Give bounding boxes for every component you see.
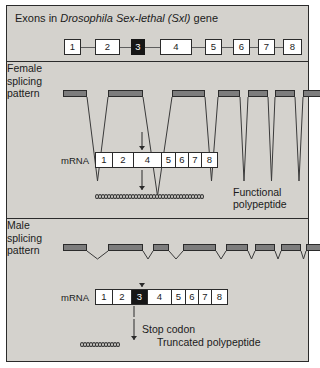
female-mrna-label: mRNA <box>61 155 89 166</box>
female-mrna-exon-5: 5 <box>162 153 176 167</box>
stop-codon-label: Stop codon <box>142 323 195 335</box>
male-splicing-panel: Male splicing pattern mRNA 12345678 Stop… <box>7 219 308 363</box>
female-exon-bar-4 <box>218 90 240 97</box>
functional-polypeptide-label: Functional polypeptide <box>233 186 287 210</box>
female-intron-loop-2 <box>143 97 172 196</box>
title-prefix: Exons in <box>15 12 60 24</box>
female-exon-bar-1 <box>63 90 87 97</box>
gene-exon-box-4: 4 <box>160 39 192 55</box>
gene-intron-connector <box>192 47 205 48</box>
female-mrna-exon-7: 7 <box>189 153 202 167</box>
female-mrna-exon-2: 2 <box>113 153 134 167</box>
gene-intron-connector <box>222 47 233 48</box>
peptide-bead <box>200 194 204 199</box>
functional-label-line-1: Functional <box>233 186 287 198</box>
male-mrna-exon-6: 6 <box>186 290 199 304</box>
gene-exon-box-6: 6 <box>233 39 250 55</box>
female-exon-bar-6 <box>275 90 295 97</box>
female-intron-loop-4 <box>240 97 248 181</box>
figure-panel: Exons in Drosophila Sex-lethal (Sxl) gen… <box>6 5 309 362</box>
peptide-bead <box>116 342 120 347</box>
female-mrna-exon-1: 1 <box>96 153 113 167</box>
male-splicing-arrow-head <box>139 283 145 287</box>
gene-intron-connector <box>250 47 258 48</box>
female-exon-bar-2 <box>108 90 143 97</box>
title-gene: Sex-lethal (Sxl) <box>113 12 191 24</box>
gene-map-panel: Exons in Drosophila Sex-lethal (Sxl) gen… <box>7 6 308 62</box>
female-mrna-exon-8: 8 <box>202 153 217 167</box>
title-species: Drosophila <box>60 12 113 24</box>
male-exon-bar-3 <box>153 244 169 251</box>
male-exon-bar-1 <box>63 244 87 251</box>
functional-label-line-2: polypeptide <box>233 198 287 210</box>
male-label-line-1: Male <box>7 219 308 232</box>
male-mrna-exon-4: 4 <box>148 290 172 304</box>
female-intron-loop-6 <box>295 97 303 181</box>
male-exon-bar-5 <box>226 244 248 251</box>
gene-intron-connector <box>120 47 131 48</box>
male-exon-bar-7 <box>281 244 301 251</box>
male-translation-arrow-head <box>131 336 137 340</box>
male-mrna-label: mRNA <box>61 292 89 303</box>
female-intron-loop-1 <box>87 97 108 181</box>
gene-intron-connector <box>145 47 160 48</box>
gene-intron-connector <box>275 47 283 48</box>
female-translation-arrow-head <box>139 186 145 190</box>
male-mrna-exon-3: 3 <box>132 290 148 304</box>
male-label-line-2: splicing <box>7 232 308 245</box>
female-intron-loop-5 <box>268 97 275 181</box>
female-exon-bar-7 <box>303 90 317 97</box>
gene-exon-box-1: 1 <box>64 39 81 55</box>
female-label-line-2: splicing <box>7 75 308 88</box>
male-mrna-exon-7: 7 <box>199 290 212 304</box>
male-exon-bar-8 <box>306 244 317 251</box>
female-exon-bar-3 <box>172 90 205 97</box>
female-mrna-strip: 1245678 <box>95 152 218 168</box>
female-label-line-1: Female <box>7 62 308 75</box>
gene-exon-box-5: 5 <box>205 39 222 55</box>
gene-exon-box-3: 3 <box>131 39 145 55</box>
male-mrna-strip: 12345678 <box>95 289 228 305</box>
male-mrna-exon-1: 1 <box>96 290 113 304</box>
gene-exon-box-2: 2 <box>95 39 120 55</box>
gene-exon-box-8: 8 <box>283 39 302 55</box>
female-mrna-exon-4: 4 <box>134 153 162 167</box>
female-exon-bar-5 <box>248 90 268 97</box>
male-exon-bar-2 <box>108 244 143 251</box>
gene-intron-connector <box>81 47 95 48</box>
truncated-polypeptide-label: Truncated polypeptide <box>157 336 261 348</box>
figure-title: Exons in Drosophila Sex-lethal (Sxl) gen… <box>15 12 218 25</box>
functional-polypeptide-chain <box>95 193 203 200</box>
truncated-polypeptide-chain <box>80 341 119 348</box>
title-suffix: gene <box>190 12 218 24</box>
female-splicing-panel: Female splicing pattern mRNA 1245678 Fun… <box>7 62 308 219</box>
male-exon-bar-6 <box>255 244 275 251</box>
female-intron-loop-3 <box>205 97 218 181</box>
gene-exon-box-7: 7 <box>258 39 275 55</box>
male-mrna-exon-2: 2 <box>113 290 132 304</box>
male-mrna-exon-8: 8 <box>212 290 227 304</box>
male-exon-bar-4 <box>183 244 216 251</box>
female-splicing-arrow-head <box>139 146 145 150</box>
female-mrna-exon-6: 6 <box>176 153 189 167</box>
male-mrna-exon-5: 5 <box>172 290 186 304</box>
